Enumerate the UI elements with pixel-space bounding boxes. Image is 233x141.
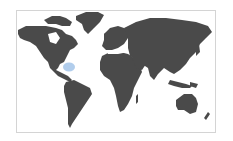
world-map (0, 0, 233, 141)
indonesia (168, 80, 192, 88)
arctic-islands (44, 16, 72, 26)
north-america (18, 26, 78, 82)
greenland (76, 12, 104, 34)
south-america (64, 80, 92, 128)
madagascar (136, 94, 138, 104)
highlighted-region[interactable] (63, 63, 75, 72)
land-masses (18, 12, 212, 128)
australia (176, 94, 198, 114)
new-guinea (190, 82, 198, 88)
japan (196, 44, 200, 56)
new-zealand (204, 112, 210, 120)
